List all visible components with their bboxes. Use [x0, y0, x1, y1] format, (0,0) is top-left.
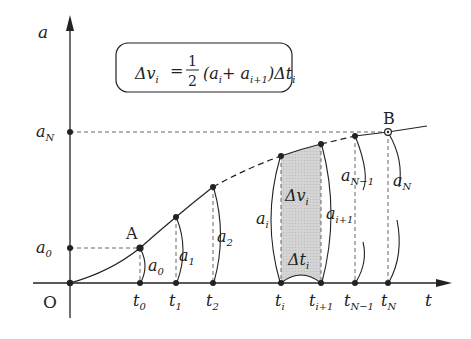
- svg-text:tN−1: tN−1: [344, 291, 374, 312]
- curve-solid-start: [70, 187, 213, 283]
- svg-text:t2: t2: [206, 291, 219, 312]
- svg-text:1: 1: [188, 53, 197, 69]
- curve-points: [67, 129, 391, 286]
- y-tick-aN: aN: [36, 122, 56, 143]
- svg-text:ai+1: ai+1: [326, 204, 354, 225]
- y-axis-arrow-icon: [66, 15, 74, 31]
- svg-text:t0: t0: [133, 291, 146, 312]
- x-axis-label: t: [425, 290, 432, 310]
- y-axis-label: a: [38, 22, 48, 42]
- height-labels: a0 a1 a2 ai ai+1 aN−1 aN: [148, 166, 413, 277]
- svg-text:Δvi: Δvi: [134, 64, 159, 85]
- point-B-label: B: [383, 109, 395, 128]
- delta-t-label: Δti: [287, 250, 309, 271]
- delta-v-label: Δvi: [284, 186, 309, 207]
- svg-text:2: 2: [188, 73, 197, 89]
- svg-text:a1: a1: [179, 246, 195, 267]
- x-tick-labels: t0 t1 t2 ti ti+1 tN−1 tN: [133, 291, 397, 312]
- svg-text:tN: tN: [381, 291, 397, 312]
- point-B-center: [387, 131, 389, 133]
- svg-text:(ai+ ai+1)Δti: (ai+ ai+1)Δti: [203, 64, 295, 85]
- curve-dashed-mid1: [213, 156, 281, 187]
- svg-text:a0: a0: [148, 256, 165, 277]
- svg-text:t1: t1: [169, 291, 182, 312]
- origin-label: O: [43, 292, 57, 312]
- svg-text:a2: a2: [217, 227, 233, 248]
- svg-text:aN: aN: [393, 171, 413, 192]
- x-axis-arrow-icon: [436, 279, 452, 287]
- svg-text:ti+1: ti+1: [309, 291, 333, 312]
- y-tick-a0: a0: [36, 238, 53, 259]
- curve-dashed-mid2: [321, 136, 355, 144]
- svg-text:=: =: [170, 61, 183, 80]
- point-A-label: A: [125, 224, 138, 243]
- svg-text:ai: ai: [256, 209, 269, 230]
- svg-text:aN−1: aN−1: [341, 166, 374, 187]
- acceleration-time-diagram: Δvi = 1 2 (ai+ ai+1)Δti a t O aN a0 A B …: [0, 0, 471, 339]
- svg-text:ti: ti: [275, 291, 285, 312]
- vertical-dashed-lines: [140, 132, 388, 283]
